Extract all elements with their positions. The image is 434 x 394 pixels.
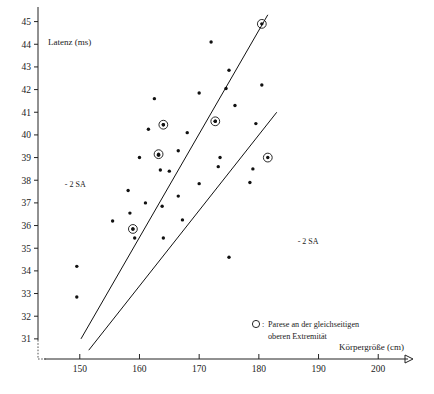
- annotation-upper-2sa: - 2 SA: [298, 237, 319, 246]
- data-point: [186, 131, 189, 134]
- data-point: [177, 194, 180, 197]
- y-tick-label: 36: [22, 221, 32, 231]
- legend-colon: :: [262, 320, 264, 329]
- y-tick-label: 43: [22, 62, 32, 72]
- data-point: [162, 236, 165, 239]
- data-point: [251, 167, 254, 170]
- y-tick-label: 44: [22, 40, 32, 50]
- data-point: [217, 165, 220, 168]
- data-point-parese: [260, 22, 263, 25]
- y-tick-label: 33: [22, 289, 32, 299]
- y-tick-label: 40: [22, 130, 32, 140]
- data-points-group: [75, 19, 272, 298]
- data-point: [133, 236, 136, 239]
- x-axis-title: Körpergröße (cm): [339, 342, 404, 352]
- data-point: [181, 218, 184, 221]
- y-tick-label: 32: [22, 312, 32, 322]
- data-point: [160, 205, 163, 208]
- data-point: [147, 128, 150, 131]
- legend-line-2: oberen Extremität: [268, 332, 328, 341]
- data-point: [227, 256, 230, 259]
- y-axis-title: Latenz (ms): [48, 37, 91, 47]
- data-point: [128, 211, 131, 214]
- upper-2sa-line: [81, 15, 268, 339]
- data-point: [197, 182, 200, 185]
- y-tick-label: 45: [22, 17, 32, 27]
- data-point-parese: [157, 152, 160, 155]
- x-tick-label: 200: [371, 364, 386, 374]
- data-point: [209, 40, 212, 43]
- x-tick-label: 160: [132, 364, 147, 374]
- data-point: [138, 156, 141, 159]
- x-tick-label: 150: [73, 364, 88, 374]
- data-point: [126, 189, 129, 192]
- axes-group: 3132333435363738394041424344451501601701…: [22, 7, 414, 374]
- lower-2sa-line: [89, 112, 277, 350]
- data-point: [218, 156, 221, 159]
- y-tick-label: 39: [22, 153, 32, 163]
- data-point: [75, 265, 78, 268]
- text-labels-group: Latenz (ms)Körpergröße (cm)- 2 SA- 2 SA:…: [48, 37, 404, 352]
- reference-lines-group: [81, 15, 277, 350]
- data-point-parese: [131, 227, 134, 230]
- legend-open-circle-icon: [252, 320, 259, 327]
- data-point: [153, 97, 156, 100]
- y-tick-label: 35: [22, 244, 32, 254]
- scatter-chart-figure: 3132333435363738394041424344451501601701…: [0, 0, 434, 394]
- data-point-parese: [162, 123, 165, 126]
- data-point: [75, 295, 78, 298]
- annotation-lower-2sa: - 2 SA: [65, 180, 86, 189]
- data-point: [177, 149, 180, 152]
- x-tick-label: 170: [192, 364, 207, 374]
- x-tick-label: 190: [311, 364, 326, 374]
- y-tick-label: 41: [22, 108, 32, 118]
- legend-line-1: Parese an der gleichseitigen: [268, 320, 359, 329]
- data-point: [233, 104, 236, 107]
- data-point: [144, 201, 147, 204]
- data-point: [224, 87, 227, 90]
- data-point: [168, 169, 171, 172]
- y-tick-label: 38: [22, 176, 32, 186]
- data-point: [159, 168, 162, 171]
- y-tick-label: 42: [22, 85, 32, 95]
- data-point: [260, 83, 263, 86]
- y-tick-label: 31: [22, 334, 32, 344]
- x-tick-label: 180: [252, 364, 267, 374]
- plot-area: 3132333435363738394041424344451501601701…: [0, 0, 434, 394]
- data-point-parese: [214, 120, 217, 123]
- data-point-parese: [266, 156, 269, 159]
- data-point: [227, 69, 230, 72]
- data-point: [111, 219, 114, 222]
- data-point: [197, 91, 200, 94]
- data-point: [248, 181, 251, 184]
- data-point: [254, 122, 257, 125]
- y-tick-label: 37: [22, 198, 32, 208]
- y-tick-label: 34: [22, 266, 32, 276]
